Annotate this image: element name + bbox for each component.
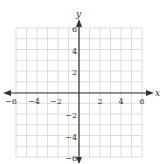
x-tick-label: 2 — [97, 97, 102, 106]
y-tick-label: 4 — [72, 47, 77, 56]
y-tick-label: 6 — [72, 25, 77, 34]
y-tick-label: 2 — [72, 68, 77, 77]
x-tick-label: −4 — [28, 97, 40, 106]
x-axis-left-arrow-icon — [3, 90, 11, 96]
y-tick-label: −2 — [65, 111, 77, 120]
y-axis-label: y — [75, 9, 82, 19]
y-tick-label: −4 — [65, 133, 77, 142]
coordinate-plane: y x −6 −4 −2 2 4 6 6 4 2 −2 −4 −6 — [0, 0, 162, 164]
x-axis-label: x — [155, 88, 160, 98]
x-tick-label: 6 — [139, 97, 144, 106]
x-tick-label: 4 — [118, 97, 123, 106]
x-tick-label: −2 — [50, 97, 62, 106]
y-tick-label: −6 — [65, 154, 77, 163]
x-tick-label: −6 — [5, 97, 17, 106]
x-axis-right-arrow-icon — [146, 90, 154, 96]
